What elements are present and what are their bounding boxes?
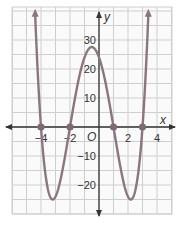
zero-point (37, 123, 44, 130)
zero-point (110, 123, 117, 130)
y-tick-label: 30 (84, 34, 96, 46)
x-axis-left-arrow-icon (5, 124, 12, 130)
y-tick-label: −10 (77, 150, 96, 162)
graph: −4−224302010−10−20 x y O (0, 0, 180, 225)
x-axis-label: x (159, 113, 167, 127)
y-tick-label: 20 (84, 63, 96, 75)
zero-point (139, 123, 146, 130)
y-tick-label: −20 (77, 179, 96, 191)
y-tick-label: 10 (84, 92, 96, 104)
x-tick-label: 4 (154, 132, 160, 144)
y-axis-label: y (103, 10, 111, 24)
zero-point (66, 123, 73, 130)
x-tick-label: 2 (125, 132, 131, 144)
origin-label: O (87, 130, 96, 144)
